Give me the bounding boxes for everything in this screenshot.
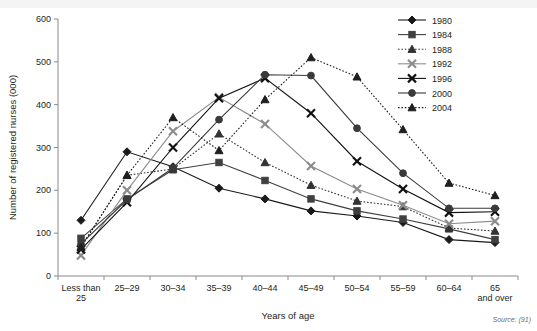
data-point-square	[308, 196, 314, 202]
data-point-cross	[123, 186, 131, 194]
series-line	[81, 97, 495, 255]
x-tick-label: 60–64	[436, 283, 461, 293]
x-tick-label: 40–44	[252, 283, 277, 293]
legend-label-1988[interactable]: 1988	[432, 45, 452, 55]
legend-label-1996[interactable]: 1996	[432, 74, 452, 84]
data-point-square	[262, 177, 268, 183]
series-line	[81, 152, 495, 243]
data-point-cross	[399, 185, 407, 193]
series-line	[81, 134, 495, 247]
data-point-square	[492, 236, 498, 242]
data-point-diamond	[307, 207, 315, 215]
data-point-cross	[215, 94, 223, 102]
legend-label-1984[interactable]: 1984	[432, 30, 452, 40]
legend-label-1980[interactable]: 1980	[432, 16, 452, 26]
series-line	[81, 75, 495, 244]
data-point-cross	[307, 162, 315, 170]
legend: 1980198419881992199620002004	[398, 16, 452, 114]
series-1980	[77, 148, 499, 247]
y-tick-label: 600	[36, 14, 51, 24]
data-point-circle	[262, 71, 269, 78]
x-tick-label: and over	[477, 293, 512, 303]
data-point-triangle	[215, 130, 223, 137]
x-tick-label: 35–39	[206, 283, 231, 293]
x-tick-label: 45–49	[298, 283, 323, 293]
data-point-cross	[169, 127, 177, 135]
data-point-diamond	[261, 195, 269, 203]
data-point-triangle	[215, 146, 223, 153]
data-point-cross	[169, 144, 177, 152]
y-tick-label: 400	[36, 100, 51, 110]
data-point-circle	[492, 205, 499, 212]
y-axis-title: Number of registered nurses (000)	[7, 75, 18, 220]
data-point-cross	[307, 109, 315, 117]
x-tick-label: 50–54	[344, 283, 369, 293]
x-tick-label: 65	[490, 283, 500, 293]
data-point-diamond	[445, 236, 453, 244]
x-tick-label: 25–29	[114, 283, 139, 293]
data-point-cross	[353, 185, 361, 193]
x-tick-label: 30–34	[160, 283, 185, 293]
data-point-square	[354, 208, 360, 214]
data-point-cross	[261, 120, 269, 128]
data-point-circle	[400, 170, 407, 177]
y-tick-label: 500	[36, 57, 51, 67]
y-tick-label: 0	[46, 271, 51, 281]
series-line	[81, 58, 495, 248]
data-point-circle	[409, 90, 416, 97]
data-point-triangle	[261, 96, 269, 103]
data-point-circle	[308, 72, 315, 79]
chart-container: 0100200300400500600Less than2525–2930–34…	[0, 0, 537, 331]
data-point-triangle	[445, 179, 453, 186]
legend-label-2000[interactable]: 2000	[432, 89, 452, 99]
data-point-triangle	[307, 181, 315, 188]
data-point-circle	[446, 205, 453, 212]
data-point-square	[216, 159, 222, 165]
line-chart-svg: 0100200300400500600Less than2525–2930–34…	[0, 0, 537, 331]
data-point-triangle	[353, 73, 361, 80]
source-note: Source: (91)	[492, 316, 531, 324]
data-point-diamond	[215, 184, 223, 192]
y-tick-label: 200	[36, 185, 51, 195]
x-tick-label: 25	[76, 293, 86, 303]
data-point-diamond	[408, 16, 416, 24]
data-point-circle	[354, 125, 361, 132]
x-axis-title: Years of age	[262, 310, 315, 321]
data-point-square	[400, 216, 406, 222]
data-point-cross	[353, 157, 361, 165]
legend-label-2004[interactable]: 2004	[432, 103, 452, 113]
data-point-diamond	[77, 216, 85, 224]
data-point-circle	[216, 116, 223, 123]
x-axis: Less than2525–2930–3435–3940–4445–4950–5…	[58, 276, 518, 303]
data-point-diamond	[123, 148, 131, 156]
data-point-square	[409, 31, 415, 37]
legend-label-1992[interactable]: 1992	[432, 59, 452, 69]
y-tick-label: 300	[36, 143, 51, 153]
data-point-triangle	[261, 158, 269, 165]
data-point-circle	[170, 165, 177, 172]
data-point-triangle	[307, 54, 315, 61]
data-point-triangle	[169, 114, 177, 121]
data-point-circle	[124, 196, 131, 203]
y-tick-label: 100	[36, 228, 51, 238]
x-tick-label: 55–59	[390, 283, 415, 293]
x-tick-label: Less than	[61, 283, 100, 293]
